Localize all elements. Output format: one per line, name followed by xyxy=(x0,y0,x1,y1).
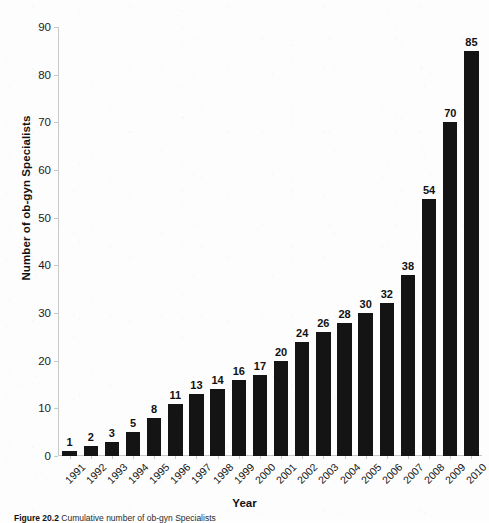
bar[interactable] xyxy=(358,313,372,456)
x-axis-tick-mark xyxy=(471,456,472,459)
bar-slot: 542008 xyxy=(419,27,440,456)
bar-slot: 852010 xyxy=(461,27,482,456)
bar-slot: 11991 xyxy=(59,27,80,456)
x-axis-tick-mark xyxy=(218,456,219,459)
x-axis-tick-label: 2005 xyxy=(358,461,383,486)
bar-value-label: 1 xyxy=(59,436,80,448)
bar[interactable] xyxy=(147,418,161,456)
y-axis-tick-mark xyxy=(54,313,58,314)
y-axis-tick-mark xyxy=(54,170,58,171)
bar[interactable] xyxy=(464,51,478,456)
bar[interactable] xyxy=(295,342,309,456)
bar[interactable] xyxy=(84,446,98,456)
x-axis-tick-label: 2010 xyxy=(464,461,489,486)
bar-value-label: 24 xyxy=(292,327,313,339)
bar-value-label: 14 xyxy=(207,374,228,386)
bar[interactable] xyxy=(168,404,182,456)
x-axis-tick-mark xyxy=(366,456,367,459)
x-axis-tick-label: 2003 xyxy=(316,461,341,486)
bar-value-label: 70 xyxy=(440,107,461,119)
x-axis-tick-mark xyxy=(345,456,346,459)
y-axis-tick-mark xyxy=(54,218,58,219)
bar[interactable] xyxy=(422,199,436,456)
y-axis-tick-label: 40 xyxy=(38,259,51,271)
x-axis-tick-mark xyxy=(323,456,324,459)
y-axis-tick-label: 50 xyxy=(38,212,51,224)
bar-value-label: 16 xyxy=(228,365,249,377)
bar[interactable] xyxy=(189,394,203,456)
bar-slot: 172000 xyxy=(249,27,270,456)
bar-slot: 31993 xyxy=(101,27,122,456)
y-axis-tick-label: 70 xyxy=(38,116,51,128)
y-axis-tick-mark xyxy=(54,27,58,28)
figure-caption: Figure 20.2 Cumulative number of ob-gyn … xyxy=(14,513,484,523)
bar-value-label: 2 xyxy=(80,431,101,443)
y-axis-tick-mark xyxy=(54,456,58,457)
bar[interactable] xyxy=(210,389,224,456)
x-axis-tick-mark xyxy=(196,456,197,459)
x-axis-title: Year xyxy=(0,497,489,509)
bar-slot: 51994 xyxy=(122,27,143,456)
figure-number: Figure 20.2 xyxy=(14,513,59,523)
bar-value-label: 54 xyxy=(419,184,440,196)
y-axis-title: Number of ob-gyn Specialists xyxy=(20,88,32,308)
x-axis-tick-label: 2002 xyxy=(295,461,320,486)
x-axis-tick-label: 2009 xyxy=(443,461,468,486)
x-axis-tick-label: 1998 xyxy=(210,461,235,486)
y-axis-tick-label: 60 xyxy=(38,164,51,176)
y-axis-tick-label: 0 xyxy=(45,450,51,462)
bar-slot: 202001 xyxy=(271,27,292,456)
y-axis-tick-mark xyxy=(54,408,58,409)
bar-slot: 282004 xyxy=(334,27,355,456)
x-axis-tick-mark xyxy=(450,456,451,459)
x-axis-tick-label: 1993 xyxy=(104,461,129,486)
bar[interactable] xyxy=(401,275,415,456)
x-axis-tick-mark xyxy=(175,456,176,459)
y-axis-tick-label: 80 xyxy=(38,69,51,81)
x-axis-tick-mark xyxy=(387,456,388,459)
bar[interactable] xyxy=(105,442,119,456)
bar-group: 1199121992319935199481995111996131997141… xyxy=(59,27,482,456)
bar-slot: 382007 xyxy=(397,27,418,456)
bar-value-label: 20 xyxy=(271,346,292,358)
bar-value-label: 26 xyxy=(313,317,334,329)
bar-slot: 702009 xyxy=(440,27,461,456)
bar-slot: 21992 xyxy=(80,27,101,456)
bar-value-label: 8 xyxy=(144,403,165,415)
bar[interactable] xyxy=(380,303,394,456)
bar-value-label: 32 xyxy=(376,288,397,300)
bar[interactable] xyxy=(232,380,246,456)
x-axis-tick-mark xyxy=(239,456,240,459)
figure-caption-text: Cumulative number of ob-gyn Specialists xyxy=(61,513,216,523)
bar[interactable] xyxy=(443,122,457,456)
bar-slot: 322006 xyxy=(376,27,397,456)
bar[interactable] xyxy=(337,323,351,456)
bar-value-label: 3 xyxy=(101,427,122,439)
bar-slot: 141998 xyxy=(207,27,228,456)
x-axis-tick-mark xyxy=(91,456,92,459)
bar-value-label: 30 xyxy=(355,298,376,310)
bar-slot: 81995 xyxy=(144,27,165,456)
y-axis-tick-mark xyxy=(54,265,58,266)
bar-slot: 161999 xyxy=(228,27,249,456)
bar[interactable] xyxy=(274,361,288,456)
x-axis-tick-mark xyxy=(112,456,113,459)
bar-slot: 131997 xyxy=(186,27,207,456)
x-axis-tick-label: 1997 xyxy=(189,461,214,486)
x-axis-tick-label: 1995 xyxy=(147,461,172,486)
x-axis-tick-label: 1991 xyxy=(62,461,87,486)
y-axis-tick-mark xyxy=(54,361,58,362)
bar[interactable] xyxy=(316,332,330,456)
y-axis-tick-label: 10 xyxy=(38,402,51,414)
bar-value-label: 5 xyxy=(122,417,143,429)
bar-value-label: 28 xyxy=(334,308,355,320)
x-axis-tick-label: 1996 xyxy=(168,461,193,486)
bar[interactable] xyxy=(253,375,267,456)
x-axis-tick-mark xyxy=(281,456,282,459)
bar-value-label: 85 xyxy=(461,36,482,48)
bar-value-label: 38 xyxy=(397,260,418,272)
y-axis-tick-mark xyxy=(54,122,58,123)
bar[interactable] xyxy=(126,432,140,456)
plot-area: 0102030405060708090 11991219923199351994… xyxy=(58,27,482,455)
